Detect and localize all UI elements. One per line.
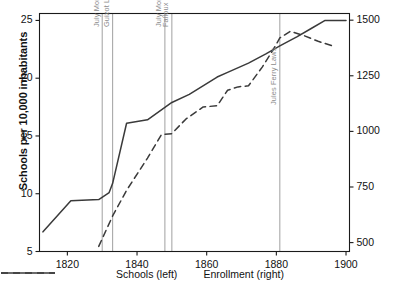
y-tick-label-left: 5 — [7, 245, 33, 257]
annotation-label: Guizot Law — [102, 0, 111, 27]
annotation-label: Jules Ferry Laws — [269, 48, 278, 105]
y-tick-label-left: 25 — [7, 13, 33, 25]
legend-label-enrollment: Enrollment (right) — [203, 268, 284, 280]
y-tick-label-right: 750 — [357, 180, 391, 192]
plot-frame — [40, 14, 350, 252]
annotation-label: Falloux Law — [161, 0, 170, 27]
chart-figure: Schools per 10,000 inhabitants Enrollmen… — [0, 0, 400, 290]
legend-label-schools: Schools (left) — [116, 268, 177, 280]
legend-item-schools: Schools (left) — [116, 268, 177, 280]
series-line-enrollment — [99, 31, 336, 246]
plot-area — [0, 0, 400, 290]
y-tick-label-left: 20 — [7, 71, 33, 83]
chart-legend: Schools (left) Enrollment (right) — [0, 268, 400, 280]
y-tick-label-right: 500 — [357, 236, 391, 248]
legend-item-enrollment: Enrollment (right) — [203, 268, 284, 280]
y-tick-label-right: 1250 — [357, 69, 391, 81]
y-tick-label-left: 15 — [7, 129, 33, 141]
y-tick-label-left: 10 — [7, 187, 33, 199]
y-tick-label-right: 1500 — [357, 13, 391, 25]
series-line-schools — [43, 20, 346, 231]
legend-swatch-dashed — [0, 268, 56, 278]
y-tick-label-right: 1000 — [357, 124, 391, 136]
annotation-label: July Monarchy begins — [92, 0, 101, 27]
